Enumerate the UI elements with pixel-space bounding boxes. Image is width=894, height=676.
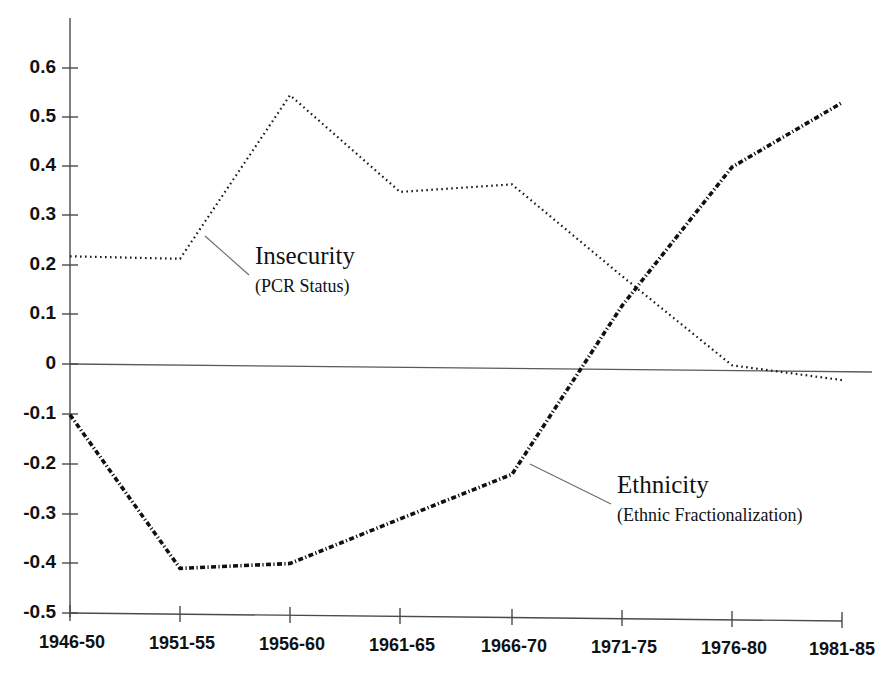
- x-tick-label-6: 1976-80: [701, 638, 767, 658]
- x-tick-label-1: 1951-55: [149, 633, 215, 653]
- x-tick-label-0: 1946-50: [39, 632, 105, 652]
- annotation-label-ethnicity: Ethnicity: [617, 471, 709, 498]
- y-tick-label-1: 0.5: [30, 105, 57, 126]
- x-tick-label-5: 1971-75: [591, 637, 657, 657]
- y-tick-label-8: -0.2: [23, 452, 56, 473]
- line-chart: 0.6 0.5 0.4 0.3 0.2 0.1 0 -0.1 -0.2 -0.3…: [0, 0, 894, 676]
- x-tick-label-2: 1956-60: [259, 634, 325, 654]
- plot-background: [0, 0, 894, 676]
- x-tick-label-4: 1966-70: [481, 636, 547, 656]
- x-tick-label-3: 1961-65: [369, 635, 435, 655]
- annotation-sublabel-ethnicity: (Ethnic Fractionalization): [617, 505, 802, 526]
- annotation-sublabel-insecurity: (PCR Status): [255, 276, 350, 297]
- y-tick-label-5: 0.1: [30, 302, 57, 323]
- y-tick-label-7: -0.1: [23, 402, 56, 423]
- annotation-label-insecurity: Insecurity: [255, 242, 355, 269]
- y-tick-label-0: 0.6: [30, 56, 56, 77]
- y-tick-label-9: -0.3: [23, 502, 56, 523]
- x-tick-label-7: 1981-85: [809, 639, 875, 659]
- y-tick-label-10: -0.4: [23, 551, 56, 572]
- chart-container: 0.6 0.5 0.4 0.3 0.2 0.1 0 -0.1 -0.2 -0.3…: [0, 0, 894, 676]
- y-tick-label-3: 0.3: [30, 203, 56, 224]
- y-tick-label-11: -0.5: [23, 601, 56, 622]
- y-tick-label-4: 0.2: [30, 253, 56, 274]
- y-tick-label-2: 0.4: [30, 154, 57, 175]
- y-tick-label-6: 0: [45, 352, 56, 373]
